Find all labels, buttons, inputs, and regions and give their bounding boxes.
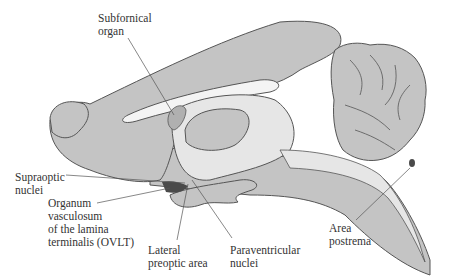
label-lateral-preoptic-area: Lateral preoptic area: [148, 244, 208, 270]
label-supraoptic-nuclei: Supraoptic nuclei: [15, 171, 65, 197]
label-paraventricular-nuclei: Paraventricular nuclei: [230, 244, 300, 270]
cerebellum: [331, 43, 426, 160]
label-subfornical-organ: Subfornical organ: [98, 12, 152, 38]
label-area-postrema: Area postrema: [329, 222, 371, 248]
label-ovlt: Organum vasculosum of the lamina termina…: [48, 197, 134, 249]
area-postrema-organ: [409, 159, 415, 167]
